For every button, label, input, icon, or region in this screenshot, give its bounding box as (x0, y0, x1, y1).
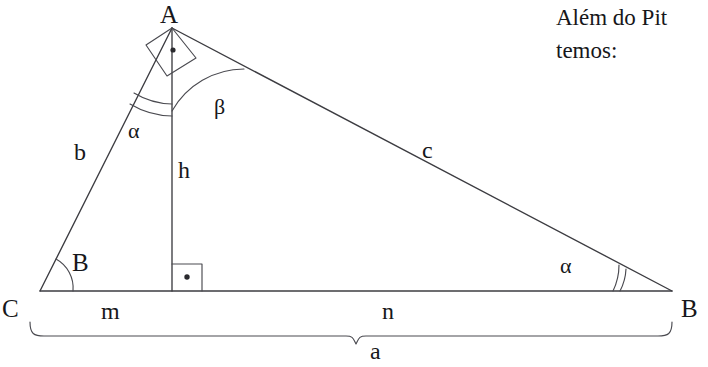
vertex-label-c: C (2, 296, 19, 321)
brace-label-a: a (370, 339, 381, 363)
angle-label-alpha-at-b: α (560, 255, 572, 277)
alpha-apex-arc-outer (134, 93, 172, 104)
prose-line-2: temos: (556, 35, 617, 68)
angle-label-b-at-c: B (72, 250, 89, 275)
side-label-b: b (74, 140, 86, 164)
beta-apex-arc (172, 69, 244, 111)
segment-label-m: m (101, 299, 120, 323)
angle-label-alpha-apex: α (128, 120, 140, 142)
alpha-arc-at-b-inner (613, 265, 619, 291)
base-brace-path (30, 322, 672, 344)
angle-label-beta-apex: β (214, 96, 225, 118)
right-angle-marker-apex (146, 28, 196, 76)
geometry-figure: A C B b c h m n a α β B α Além do Pit te… (0, 0, 708, 367)
vertex-label-b: B (681, 296, 698, 321)
right-angle-dot-foot (184, 274, 189, 279)
side-b-line (40, 28, 172, 291)
alpha-arc-at-b-outer (620, 269, 626, 291)
vertex-label-a: A (160, 2, 178, 27)
right-angle-dot-apex (170, 47, 175, 52)
altitude-label-h: h (178, 158, 190, 182)
prose-line-1: Além do Pit (556, 2, 667, 35)
angle-b-arc-at-c (56, 259, 73, 291)
side-label-c: c (422, 138, 433, 162)
segment-label-n: n (382, 299, 394, 323)
alpha-apex-arc-inner (130, 104, 172, 116)
